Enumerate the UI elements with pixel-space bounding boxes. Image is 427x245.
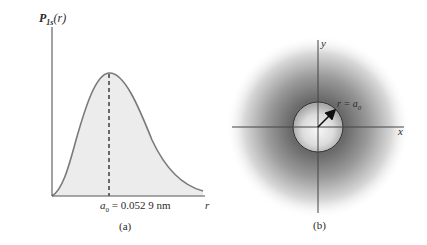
panel-b-electron-cloud: y x r = a0 (b): [213, 0, 427, 245]
caption-b: (b): [313, 219, 326, 231]
y-axis-label: P1s(r): [39, 11, 66, 27]
electron-cloud-diagram: [213, 0, 427, 245]
panel-a-radial-probability: P1s(r) r a0 = 0.052 9 nm (a): [0, 0, 213, 245]
x-axis-label: r: [205, 199, 209, 211]
y-axis-label: y: [321, 37, 326, 49]
radius-label: r = a0: [337, 98, 361, 112]
x-axis-label: x: [398, 125, 403, 137]
peak-radius-label: a0 = 0.052 9 nm: [100, 199, 171, 214]
probability-area-fill: [52, 73, 203, 196]
caption-a: (a): [119, 220, 131, 232]
